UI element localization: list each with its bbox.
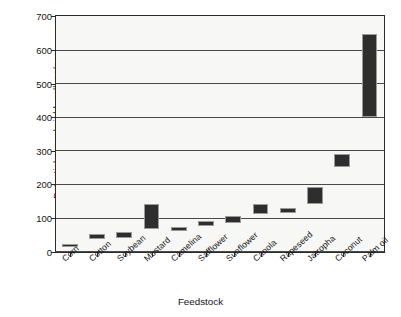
x-axis-label: Feedstock: [0, 296, 401, 307]
bar: [334, 154, 350, 167]
y-tick-mark: [51, 252, 55, 253]
y-tick-label: 300: [12, 145, 52, 156]
y-tick-label: 600: [12, 45, 52, 56]
bar: [280, 208, 296, 212]
bar: [307, 187, 323, 204]
y-tick-label: 500: [12, 78, 52, 89]
y-tick-label: 0: [12, 246, 52, 257]
gridline: [56, 218, 384, 219]
gridline: [56, 83, 384, 84]
y-tick-label: 100: [12, 213, 52, 224]
gridline: [56, 184, 384, 185]
y-tick-mark: [51, 218, 55, 219]
bar: [116, 232, 132, 238]
bar: [253, 204, 269, 214]
bar: [144, 204, 160, 229]
gridline: [56, 50, 384, 51]
plot-area: [55, 15, 385, 253]
bar: [362, 34, 378, 116]
plot-inner: [56, 16, 384, 252]
y-tick-label: 700: [12, 11, 52, 22]
bar: [198, 221, 214, 226]
y-tick-label: 200: [12, 179, 52, 190]
gridline: [56, 117, 384, 118]
bar: [171, 227, 187, 231]
y-tick-mark: [51, 117, 55, 118]
y-tick-mark: [51, 84, 55, 85]
y-tick-mark: [51, 16, 55, 17]
y-tick-mark: [51, 50, 55, 51]
bar: [225, 216, 241, 223]
gridline: [56, 150, 384, 151]
y-tick-mark: [51, 151, 55, 152]
bar: [89, 234, 105, 239]
y-tick-mark: [51, 184, 55, 185]
y-tick-label: 400: [12, 112, 52, 123]
chart-figure: Potential annual yield, gallons/acre 010…: [0, 0, 401, 317]
